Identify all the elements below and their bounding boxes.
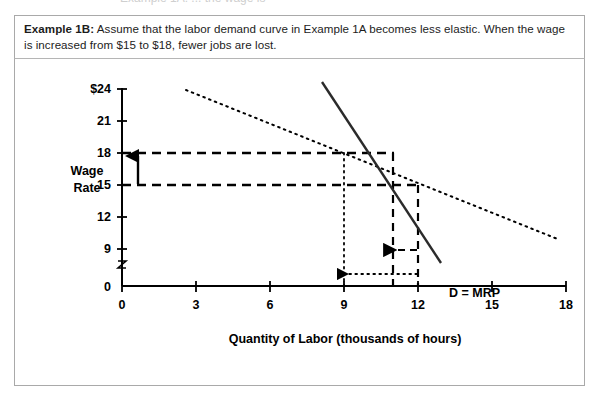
x-axis-title: Quantity of Labor (thousands of hours) [229,332,462,346]
page-top-sliver: Example 1A: ... the wage is [0,0,601,12]
original-demand-curve-dotted [186,90,560,240]
chart-svg: $24 21 18 15 12 9 0 0 3 6 9 12 15 18 Wag… [15,60,584,385]
new-demand-curve-solid [322,82,441,263]
caption-label: Example 1B: [24,22,94,35]
caption-text: Example 1B: Assume that the labor demand… [24,21,575,52]
y-tick-label-0: 0 [104,280,111,294]
x-tick-label-6: 6 [267,298,274,312]
ghost-text: Example 1A: ... the wage is [120,0,265,5]
caption-body: Assume that the labor demand curve in Ex… [24,22,565,51]
x-tick-label-12: 12 [411,298,425,312]
y-tick-label-12: 12 [97,210,111,224]
x-tick-label-18: 18 [559,298,573,312]
y-axis-title-line1: Wage [71,164,104,178]
x-tick-label-0: 0 [119,298,126,312]
x-tick-label-15: 15 [485,298,499,312]
wage-employment-chart: $24 21 18 15 12 9 0 0 3 6 9 12 15 18 Wag… [15,60,584,385]
x-tick-label-9: 9 [341,298,348,312]
y-tick-label-9: 9 [104,242,111,256]
caption-box: Example 1B: Assume that the labor demand… [14,15,585,59]
y-tick-label-18: 18 [97,146,111,160]
x-tick-label-3: 3 [193,298,200,312]
y-axis-title-line2: Rate [73,181,100,195]
y-tick-label-24: $24 [90,82,111,96]
y-tick-label-21: 21 [97,114,111,128]
demand-curve-label: D = MRP [449,286,500,300]
